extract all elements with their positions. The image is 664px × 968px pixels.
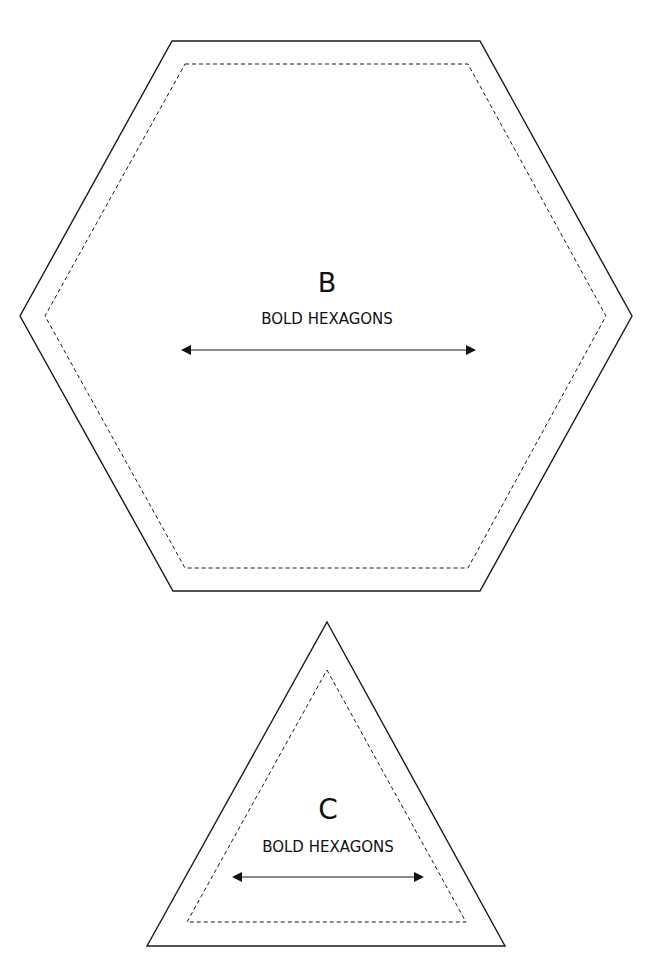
template-label: BOLD HEXAGONS — [262, 838, 394, 856]
template-letter: C — [318, 793, 338, 826]
template-sheet: B BOLD HEXAGONS C BOLD HEXAGONS — [0, 0, 664, 968]
triangle-cut-line — [147, 622, 505, 946]
template-c-triangle: C BOLD HEXAGONS — [147, 622, 505, 946]
template-label: BOLD HEXAGONS — [261, 310, 393, 328]
grain-arrow-icon — [181, 345, 476, 355]
template-letter: B — [318, 267, 337, 298]
template-b-hexagon: B BOLD HEXAGONS — [20, 41, 632, 591]
grain-arrow-icon — [232, 872, 424, 882]
